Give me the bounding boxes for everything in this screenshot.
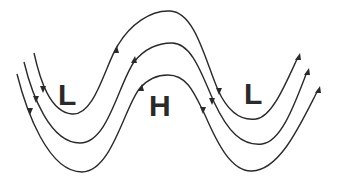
arrow-icon [33, 96, 39, 103]
wave-diagram: L H L [0, 0, 338, 181]
low-pressure-label-left: L [58, 80, 76, 110]
arrow-icon [304, 68, 310, 75]
arrow-icon [200, 107, 206, 114]
arrow-icon [315, 86, 321, 93]
arrow-icon [216, 88, 222, 95]
arrow-icon [27, 108, 33, 115]
high-pressure-label: H [149, 91, 171, 121]
arrow-icon [295, 53, 301, 60]
low-pressure-label-right: L [244, 79, 262, 109]
